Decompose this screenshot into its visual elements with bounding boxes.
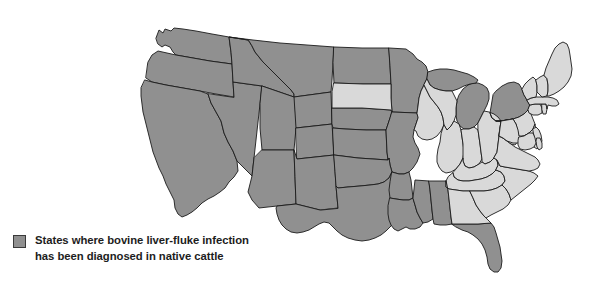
state-north-dakota <box>333 47 391 84</box>
state-maine <box>544 42 572 96</box>
state-utah <box>260 86 296 150</box>
legend-label: States where bovine liver-fluke infectio… <box>35 233 249 264</box>
legend-label-line1: States where bovine liver-fluke infectio… <box>35 233 249 249</box>
state-kansas <box>333 128 388 160</box>
state-new-mexico <box>294 150 338 210</box>
state-south-dakota <box>332 83 392 112</box>
legend-label-line2: has been diagnosed in native cattle <box>35 249 249 265</box>
state-arkansas <box>389 172 413 200</box>
state-missouri <box>386 112 420 174</box>
state-nebraska <box>332 108 392 130</box>
map-legend: States where bovine liver-fluke infectio… <box>13 233 249 264</box>
us-choropleth-figure: States where bovine liver-fluke infectio… <box>0 0 589 292</box>
state-wyoming <box>294 92 332 128</box>
state-connecticut <box>528 104 542 115</box>
legend-swatch-shaded <box>13 235 26 248</box>
state-colorado <box>296 124 334 159</box>
state-florida <box>452 223 502 272</box>
state-arizona <box>248 150 296 208</box>
